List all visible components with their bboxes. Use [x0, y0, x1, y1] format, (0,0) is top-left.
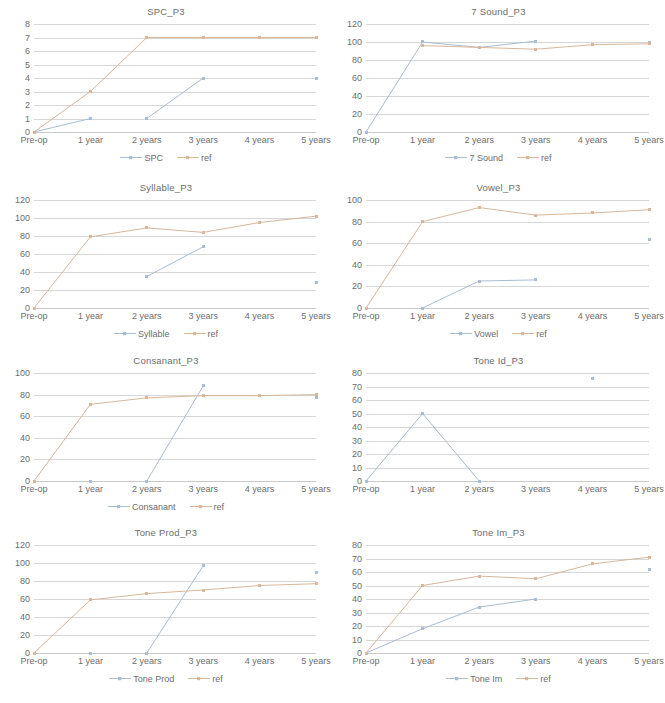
x-axis-tick-label: Pre-op [352, 656, 379, 666]
series-layer [34, 200, 316, 308]
x-axis-tick-label: 1 year [410, 135, 435, 145]
legend-item[interactable]: ref [517, 152, 552, 163]
legend-label: Tone Prod [133, 674, 174, 684]
legend-item[interactable]: ref [516, 673, 551, 684]
gridline [366, 481, 649, 482]
series-layer [34, 24, 316, 132]
data-point-marker [365, 131, 368, 134]
plot-area: 012345678 [34, 24, 316, 132]
y-axis-tick-label: 60 [352, 73, 362, 83]
y-axis-tick-label: 70 [352, 554, 362, 564]
data-point-marker [145, 36, 148, 39]
chart-panel-tone-prod: Tone Prod_P3020406080100120Pre-op1 year2… [0, 521, 332, 703]
y-axis-tick-label: 30 [352, 436, 362, 446]
y-axis-tick-label: 40 [20, 433, 30, 443]
legend-item[interactable]: Tone Prod [109, 673, 174, 684]
data-point-marker [145, 480, 148, 483]
y-axis-tick-label: 70 [352, 382, 362, 392]
chart-legend: Tone Imref [332, 673, 665, 684]
data-point-marker [421, 307, 424, 310]
y-axis-tick-label: 40 [352, 422, 362, 432]
data-point-marker [315, 281, 318, 284]
legend-item[interactable]: ref [184, 328, 219, 339]
x-axis-tick-label: Pre-op [20, 135, 47, 145]
x-axis-tick-label: 4 years [245, 656, 275, 666]
plot-area: 020406080100 [34, 373, 316, 481]
x-axis-tick-label: 2 years [464, 311, 494, 321]
y-axis-tick-label: 2 [25, 100, 30, 110]
gridline [34, 653, 316, 654]
legend-item[interactable]: Syllable [114, 328, 170, 339]
y-axis-tick-label: 50 [352, 581, 362, 591]
series-layer [366, 373, 649, 481]
legend-item[interactable]: ref [188, 673, 223, 684]
y-axis-tick-label: 20 [20, 454, 30, 464]
gridline [366, 653, 649, 654]
series-line [34, 119, 90, 133]
y-axis-tick-label: 8 [25, 19, 30, 29]
series-line [34, 38, 316, 133]
y-axis-tick-label: 100 [15, 368, 30, 378]
y-axis-tick-label: 20 [352, 449, 362, 459]
x-axis-tick-label: 4 years [578, 484, 608, 494]
legend-item[interactable]: ref [190, 501, 225, 512]
x-axis-tick-label: 1 year [410, 656, 435, 666]
x-axis-tick-label: 1 year [78, 135, 103, 145]
legend-item[interactable]: Consanant [108, 501, 176, 512]
data-point-marker [534, 40, 537, 43]
data-point-marker [648, 208, 651, 211]
data-point-marker [365, 480, 368, 483]
y-axis-tick-label: 100 [15, 558, 30, 568]
x-axis: Pre-op1 year2 years3 years4 years5 years [366, 656, 649, 670]
x-axis-tick-label: Pre-op [352, 135, 379, 145]
x-axis-tick-label: 3 years [521, 484, 551, 494]
legend-marker-icon [190, 502, 212, 512]
data-point-marker [33, 131, 36, 134]
x-axis-tick-label: Pre-op [352, 484, 379, 494]
legend-label: Tone Im [470, 674, 502, 684]
series-line [34, 395, 316, 481]
data-point-marker [591, 43, 594, 46]
y-axis-tick-label: 5 [25, 60, 30, 70]
data-point-marker [648, 238, 651, 241]
chart-title: Tone Prod_P3 [0, 527, 332, 538]
data-point-marker [478, 280, 481, 283]
data-point-marker [202, 394, 205, 397]
x-axis-tick-label: 1 year [410, 484, 435, 494]
data-point-marker [478, 206, 481, 209]
y-axis-tick-label: 4 [25, 73, 30, 83]
data-point-marker [202, 245, 205, 248]
legend-label: ref [214, 502, 225, 512]
x-axis-tick-label: 3 years [188, 135, 218, 145]
data-point-marker [648, 42, 651, 45]
x-axis-tick-label: 3 years [521, 311, 551, 321]
legend-item[interactable]: ref [177, 152, 212, 163]
data-point-marker [89, 480, 92, 483]
chart-title: 7 Sound_P3 [332, 6, 665, 17]
series-layer [366, 545, 649, 653]
legend-item[interactable]: Vowel [450, 328, 498, 339]
legend-label: SPC [144, 153, 163, 163]
data-point-marker [534, 598, 537, 601]
legend-item[interactable]: ref [512, 328, 547, 339]
data-point-marker [315, 36, 318, 39]
y-axis-tick-label: 60 [20, 249, 30, 259]
x-axis: Pre-op1 year2 years3 years4 years5 years [34, 311, 316, 325]
chart-legend: Consanantref [0, 501, 332, 512]
legend-item[interactable]: 7 Sound [445, 152, 503, 163]
legend-item[interactable]: SPC [120, 152, 163, 163]
y-axis-tick-label: 120 [15, 195, 30, 205]
series-line [34, 584, 316, 653]
y-axis-tick-label: 40 [352, 260, 362, 270]
x-axis-tick-label: 4 years [578, 311, 608, 321]
y-axis-tick-label: 120 [347, 19, 362, 29]
data-point-marker [258, 221, 261, 224]
chart-title: Tone Id_P3 [332, 355, 665, 366]
y-axis-tick-label: 100 [15, 213, 30, 223]
data-point-marker [421, 44, 424, 47]
chart-panel-syllable: Syllable_P3020406080100120Pre-op1 year2 … [0, 176, 332, 349]
x-axis-tick-label: 4 years [578, 656, 608, 666]
legend-item[interactable]: Tone Im [446, 673, 502, 684]
data-point-marker [145, 226, 148, 229]
x-axis: Pre-op1 year2 years3 years4 years5 years [366, 311, 649, 325]
